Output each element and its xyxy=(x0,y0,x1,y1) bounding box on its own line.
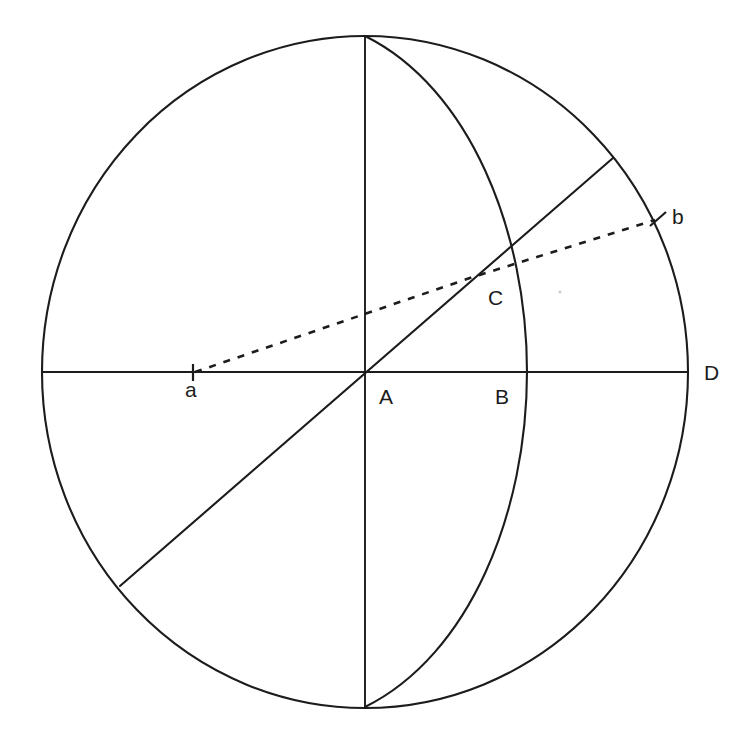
stereonet-diagram: a A B C D b xyxy=(0,0,753,741)
point-label-B: B xyxy=(495,385,509,408)
point-label-D: D xyxy=(704,361,719,384)
dashed-projection-line xyxy=(195,220,655,372)
point-label-a: a xyxy=(185,378,197,401)
point-label-b: b xyxy=(672,205,684,228)
point-label-A: A xyxy=(379,385,393,408)
figure-root: a A B C D b Figure xyxy=(0,0,753,741)
point-label-C: C xyxy=(488,286,503,309)
scan-speck xyxy=(558,290,561,293)
